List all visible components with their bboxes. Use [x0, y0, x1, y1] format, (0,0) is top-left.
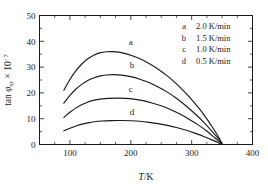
- chart-canvas: 100200300400 01020304050 abcd T/K tan φx…: [0, 0, 268, 185]
- legend-value-c: 1.0 K/min: [196, 44, 231, 54]
- x-tick-label: 100: [63, 148, 77, 158]
- y-tick-label: 40: [27, 37, 37, 47]
- curve-label-d: d: [130, 107, 135, 117]
- legend-value-a: 2.0 K/min: [196, 21, 231, 31]
- legend-key-a: a: [182, 21, 186, 31]
- legend-key-c: c: [182, 44, 186, 54]
- curve-label-b: b: [130, 60, 135, 70]
- y-axis-tick-labels: 01020304050: [27, 11, 37, 150]
- x-tick-label: 400: [246, 148, 260, 158]
- legend: a2.0 K/minb1.5 K/minc1.0 K/mind0.5 K/min: [182, 21, 231, 66]
- legend-value-b: 1.5 K/min: [196, 33, 231, 43]
- x-tick-label: 300: [185, 148, 199, 158]
- curve-label-c: c: [129, 84, 133, 94]
- y-tick-label: 20: [27, 88, 37, 98]
- x-axis-title: T/K: [139, 172, 154, 182]
- y-tick-label: 0: [31, 140, 36, 150]
- legend-value-d: 0.5 K/min: [196, 56, 231, 66]
- x-tick-label: 200: [124, 148, 138, 158]
- legend-key-d: d: [182, 56, 187, 66]
- x-axis-tick-labels: 100200300400: [63, 148, 260, 158]
- y-tick-label: 30: [27, 62, 37, 72]
- curve-label-a: a: [129, 37, 133, 47]
- legend-key-b: b: [182, 33, 186, 43]
- y-tick-label: 10: [27, 114, 37, 124]
- y-tick-label: 50: [27, 11, 37, 21]
- curve-d: [64, 121, 222, 145]
- chart-figure: 100200300400 01020304050 abcd T/K tan φx…: [0, 0, 268, 185]
- y-axis-title: tan φxy × 10−7: [2, 53, 14, 105]
